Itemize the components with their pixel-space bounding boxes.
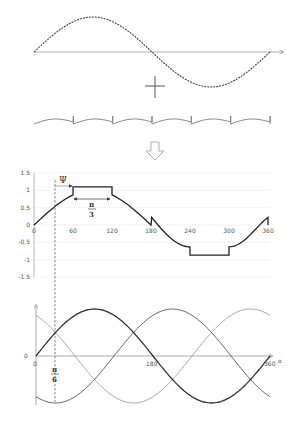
- three-phase-x-tick-180: 180: [146, 360, 158, 367]
- result-y-ticks: 1.510.50-0.5-1-1.5: [18, 169, 30, 280]
- degree-unit-label: o: [278, 357, 282, 364]
- x-tick-label: 0: [32, 227, 36, 234]
- plus-operator-icon: [145, 76, 165, 98]
- three-phase-x-tick-0: 0: [33, 360, 37, 367]
- psi-label: Ψ: [59, 175, 67, 185]
- three-phase-x-tick-360: 360: [264, 360, 276, 367]
- result-chart-grid: [34, 173, 270, 277]
- result-x-ticks: 060120180240300360: [32, 227, 274, 234]
- result-chart: 1.510.50-0.5-1-1.5 060120180240300360 Ψ …: [18, 169, 274, 280]
- pi-over-6-numerator: π: [52, 365, 57, 374]
- y-tick-label: -0.5: [18, 238, 30, 245]
- x-tick-label: 360: [262, 227, 274, 234]
- x-tick-label: 240: [184, 227, 196, 234]
- down-arrow-icon: [146, 142, 164, 160]
- pi-over-6-denominator: 6: [52, 375, 57, 384]
- pi-over-3-denominator: 3: [89, 210, 94, 219]
- harmonic-injection-diagram: 1.510.50-0.5-1-1.5 060120180240300360 Ψ …: [0, 0, 297, 425]
- result-waveform-curve: [34, 187, 268, 255]
- x-tick-label: 180: [145, 227, 157, 234]
- x-tick-label: 300: [223, 227, 235, 234]
- three-phase-chart: 0 0 180 360 o π 6: [24, 305, 282, 405]
- y-tick-label: -1: [24, 256, 30, 263]
- x-tick-label: 60: [69, 227, 77, 234]
- three-phase-y-zero-label: 0: [24, 352, 28, 359]
- fundamental-sine-panel: [34, 17, 283, 87]
- injected-harmonic-curve: [34, 116, 270, 124]
- y-tick-label: 1: [26, 186, 30, 193]
- y-tick-label: 0.5: [20, 204, 30, 211]
- y-tick-label: -1.5: [18, 273, 30, 280]
- pi-over-3-numerator: π: [89, 200, 94, 209]
- y-tick-label: 1.5: [20, 169, 30, 176]
- x-tick-label: 120: [106, 227, 118, 234]
- y-tick-label: 0: [26, 221, 30, 228]
